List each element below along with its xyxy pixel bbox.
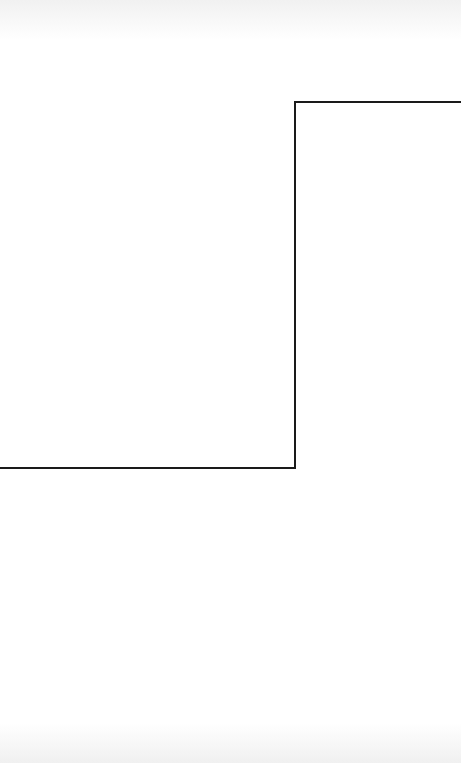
step-line (0, 102, 461, 468)
diagram-canvas (0, 0, 461, 763)
